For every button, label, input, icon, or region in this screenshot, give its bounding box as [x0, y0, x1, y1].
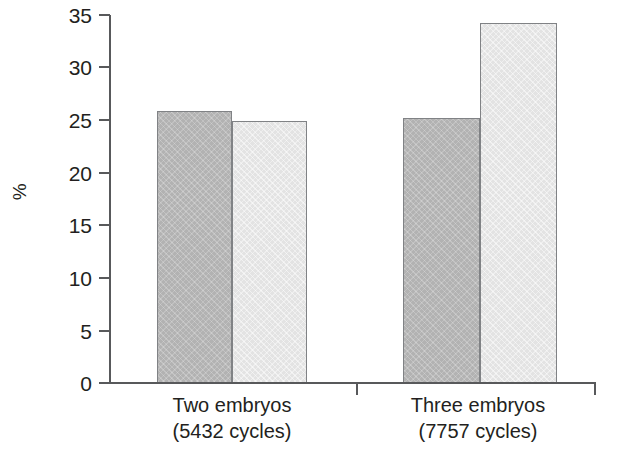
- y-tick-20: [99, 172, 110, 174]
- y-tick-25: [99, 119, 110, 121]
- bar-group1-series-a: [403, 118, 480, 383]
- category-label-group1-line1: Three embryos: [411, 394, 546, 416]
- x-axis-line: [109, 382, 596, 384]
- y-tick-label-5: 5: [48, 321, 92, 342]
- y-tick-15: [99, 224, 110, 226]
- y-tick-5: [99, 330, 110, 332]
- bar-group0-series-a: [157, 111, 232, 383]
- y-tick-label-0: 0: [48, 373, 92, 394]
- y-tick-label-10: 10: [48, 268, 92, 289]
- x-axis-end-tick: [594, 382, 596, 395]
- category-label-group0: Two embryos (5432 cycles): [137, 392, 327, 444]
- y-axis-title: %: [10, 175, 29, 209]
- bar-group0-series-b: [232, 121, 307, 383]
- y-tick-30: [99, 66, 110, 68]
- bar-chart: % 35 30 25 20 15 10 5 0 Two embryo: [0, 0, 618, 449]
- y-tick-label-30: 30: [48, 57, 92, 78]
- y-axis-line: [109, 15, 111, 384]
- y-tick-label-25: 25: [48, 110, 92, 131]
- category-label-group1: Three embryos (7757 cycles): [383, 392, 573, 444]
- category-label-group0-line1: Two embryos: [173, 394, 292, 416]
- y-tick-35: [99, 14, 110, 16]
- category-label-group1-line2: (7757 cycles): [383, 418, 573, 444]
- y-tick-label-20: 20: [48, 163, 92, 184]
- category-label-group0-line2: (5432 cycles): [137, 418, 327, 444]
- x-axis-group-divider: [356, 382, 358, 395]
- bar-group1-series-b: [480, 23, 557, 383]
- y-tick-label-15: 15: [48, 215, 92, 236]
- y-tick-10: [99, 277, 110, 279]
- y-tick-label-35: 35: [48, 5, 92, 26]
